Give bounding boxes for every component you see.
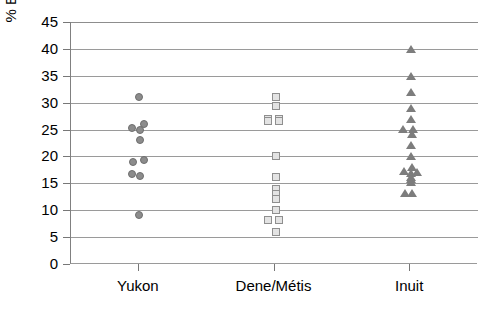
y-tick-mark-25	[63, 130, 70, 131]
y-tick-mark-0	[63, 264, 70, 265]
y-tick-mark-15	[63, 183, 70, 184]
gridline-40	[71, 49, 478, 50]
y-tick-label-25: 25	[20, 122, 58, 137]
plot-area	[70, 22, 477, 264]
y-tick-label-40: 40	[20, 41, 58, 56]
y-tick-label-10: 10	[20, 202, 58, 217]
data-point	[275, 216, 283, 224]
y-tick-mark-30	[63, 103, 70, 104]
data-point	[135, 93, 143, 101]
y-tick-label-15: 15	[20, 175, 58, 190]
data-point	[272, 102, 280, 110]
gridline-45	[71, 22, 478, 23]
data-point	[272, 93, 280, 101]
y-tick-mark-35	[63, 76, 70, 77]
data-point	[128, 124, 136, 132]
y-tick-mark-5	[63, 237, 70, 238]
data-point	[406, 178, 416, 186]
data-point	[272, 228, 280, 236]
data-point	[272, 206, 280, 214]
data-point	[136, 172, 144, 180]
y-tick-mark-20	[63, 156, 70, 157]
data-point	[140, 156, 148, 164]
data-point	[406, 152, 416, 160]
chart-container: % Energy 051015202530354045 YukonDene/Mé…	[0, 0, 490, 317]
data-point	[272, 173, 280, 181]
y-tick-label-30: 30	[20, 95, 58, 110]
gridline-5	[71, 237, 478, 238]
data-point	[406, 115, 416, 123]
x-axis-label-yukon: Yukon	[68, 277, 208, 294]
data-point	[129, 158, 137, 166]
data-point	[406, 104, 416, 112]
data-point	[406, 141, 416, 149]
y-tick-label-0: 0	[20, 256, 58, 271]
data-point	[406, 88, 416, 96]
x-tick-mark-2	[409, 264, 410, 271]
x-axis-label-inuit: Inuit	[339, 277, 479, 294]
data-point	[272, 195, 280, 203]
y-tick-label-45: 45	[20, 14, 58, 29]
data-point	[407, 130, 417, 138]
data-point	[136, 136, 144, 144]
y-tick-mark-40	[63, 49, 70, 50]
x-axis-label-dene-m-tis: Dene/Métis	[204, 277, 344, 294]
data-point	[264, 216, 272, 224]
gridline-35	[71, 76, 478, 77]
data-point	[406, 45, 416, 53]
data-point	[128, 170, 136, 178]
y-tick-label-35: 35	[20, 68, 58, 83]
y-tick-mark-45	[63, 22, 70, 23]
y-tick-label-5: 5	[20, 229, 58, 244]
data-point	[135, 211, 143, 219]
data-point	[264, 117, 272, 125]
data-point	[136, 126, 144, 134]
y-tick-mark-10	[63, 210, 70, 211]
x-tick-mark-0	[138, 264, 139, 271]
data-point	[272, 152, 280, 160]
x-tick-mark-1	[274, 264, 275, 271]
y-axis-title: % Energy	[2, 0, 19, 60]
data-point	[406, 72, 416, 80]
data-point	[407, 189, 417, 197]
y-tick-label-20: 20	[20, 148, 58, 163]
y-axis-title-text: % Energy	[2, 0, 19, 60]
data-point	[275, 117, 283, 125]
